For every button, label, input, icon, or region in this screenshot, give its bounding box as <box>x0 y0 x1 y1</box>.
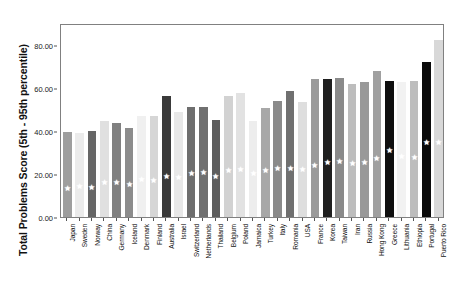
bar-poland <box>236 93 245 217</box>
x-axis-tick-label: Turkey <box>267 224 274 243</box>
bar-thailand <box>212 120 221 217</box>
x-axis-tick-mark <box>240 218 241 221</box>
bar-usa <box>298 102 307 217</box>
y-axis-tick-mark <box>54 88 57 89</box>
x-axis-tick-label: Australia <box>168 224 175 249</box>
x-axis-tick-mark <box>178 218 179 221</box>
x-axis-tick-label: Taiwan <box>341 224 348 244</box>
x-axis-tick-mark <box>401 218 402 221</box>
x-axis-tick-label: USA <box>304 224 311 237</box>
bar-finland <box>150 116 159 217</box>
bar-israel <box>174 112 183 217</box>
x-axis-tick-mark <box>339 218 340 221</box>
x-axis-tick-label: Greece <box>391 224 398 245</box>
x-axis-tick-mark <box>277 218 278 221</box>
x-axis-tick-label: Denmark <box>143 224 150 250</box>
x-axis-tick-mark <box>351 218 352 221</box>
x-axis-tick-mark <box>190 218 191 221</box>
x-axis-tick-mark <box>425 218 426 221</box>
x-axis-tick-label: Belgium <box>230 224 237 247</box>
x-axis-tick-label: Russia <box>366 224 373 244</box>
y-axis-tick-label: 80.00 <box>34 41 53 50</box>
x-axis-tick-labels: JapanSwedenNorwayChinaGermanyIcelandDenm… <box>60 218 444 292</box>
bar-greece <box>385 81 394 217</box>
bar-turkey <box>261 108 270 217</box>
y-axis-tick-label: 0.00 <box>38 214 53 223</box>
bar-sweden <box>75 133 84 217</box>
bar-italy <box>273 101 282 217</box>
x-axis-tick-label: Iran <box>354 224 361 235</box>
x-axis-tick-label: Lithuania <box>403 224 410 250</box>
x-axis-tick-label: Jamaica <box>255 224 262 248</box>
bar-jamaica <box>249 121 258 217</box>
y-axis-tick-mark <box>54 218 57 219</box>
bar-korea <box>323 79 332 217</box>
x-axis-tick-label: Switzerland <box>193 224 200 257</box>
x-axis-tick-label: Hong Kong <box>378 224 385 256</box>
x-axis-tick-mark <box>215 218 216 221</box>
bar-belgium <box>224 96 233 217</box>
bar-romania <box>286 91 295 217</box>
bar-australia <box>162 96 171 217</box>
x-axis-tick-mark <box>103 218 104 221</box>
y-axis-tick-label: 60.00 <box>34 84 53 93</box>
x-axis-tick-mark <box>413 218 414 221</box>
plot-area: ★★★★★★★★★★★★★★★★★★★★★★★★★★★★★★★ <box>60 24 444 218</box>
x-axis-tick-label: Germany <box>118 224 125 250</box>
x-axis-tick-mark <box>314 218 315 221</box>
bar-hong-kong <box>373 71 382 217</box>
x-axis-tick-label: Finland <box>156 224 163 245</box>
x-axis-tick-mark <box>165 218 166 221</box>
x-axis-tick-label: Ethiopia <box>416 224 423 247</box>
x-axis-tick-mark <box>227 218 228 221</box>
y-axis-tick-mark <box>54 45 57 46</box>
x-axis-tick-mark <box>302 218 303 221</box>
bar-china <box>100 121 109 217</box>
y-axis-tick-mark <box>54 174 57 175</box>
bar-russia <box>360 82 369 217</box>
x-axis-tick-mark <box>141 218 142 221</box>
bar-lithuania <box>397 82 406 217</box>
x-axis-tick-mark <box>264 218 265 221</box>
x-axis-tick-label: Puerto Rico <box>440 224 447 257</box>
bar-portugal <box>422 62 431 217</box>
bar-germany <box>112 123 121 217</box>
bar-japan <box>63 132 72 217</box>
bars-container: ★★★★★★★★★★★★★★★★★★★★★★★★★★★★★★★ <box>61 25 443 217</box>
bar-switzerland <box>187 107 196 217</box>
x-axis-tick-mark <box>153 218 154 221</box>
x-axis-tick-mark <box>128 218 129 221</box>
x-axis-tick-mark <box>91 218 92 221</box>
x-axis-tick-label: Italy <box>279 224 286 236</box>
bar-norway <box>88 131 97 217</box>
x-axis-tick-mark <box>289 218 290 221</box>
bar-iran <box>348 84 357 217</box>
bar-france <box>311 79 320 217</box>
x-axis-tick-label: Japan <box>69 224 76 241</box>
x-axis-tick-mark <box>438 218 439 221</box>
x-axis-tick-mark <box>252 218 253 221</box>
x-axis-tick-mark <box>116 218 117 221</box>
x-axis-tick-mark <box>363 218 364 221</box>
bar-ethiopia <box>410 81 419 217</box>
x-axis-tick-mark <box>202 218 203 221</box>
x-axis-tick-label: China <box>106 224 113 241</box>
y-axis-tick-label: 40.00 <box>34 127 53 136</box>
chart-figure: Total Problems Score (5th - 95th percent… <box>0 0 451 292</box>
bar-taiwan <box>335 78 344 217</box>
x-axis-tick-label: Iceland <box>131 224 138 245</box>
y-axis-title-container: Total Problems Score (5th - 95th percent… <box>0 0 20 292</box>
x-axis-tick-label: Korea <box>329 224 336 241</box>
x-axis-tick-label: France <box>317 224 324 244</box>
bar-iceland <box>125 128 134 217</box>
x-axis-tick-mark <box>79 218 80 221</box>
bar-netherlands <box>199 107 208 217</box>
x-axis-tick-label: Sweden <box>81 224 88 247</box>
x-axis-tick-label: Thailand <box>217 224 224 249</box>
y-axis-tick-label: 20.00 <box>34 170 53 179</box>
x-axis-tick-label: Romania <box>292 224 299 250</box>
x-axis-tick-label: Israel <box>180 224 187 240</box>
x-axis-tick-mark <box>388 218 389 221</box>
bar-denmark <box>137 116 146 217</box>
bar-puerto-rico <box>434 40 443 217</box>
